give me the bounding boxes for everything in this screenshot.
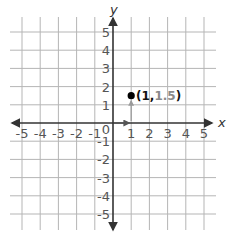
- y-tick: -1: [97, 134, 110, 149]
- plotted-point: [128, 92, 135, 99]
- y-tick: -4: [97, 189, 110, 204]
- x-tick: 4: [182, 126, 190, 141]
- y-tick: -3: [97, 171, 110, 186]
- y-tick: 1: [102, 98, 110, 113]
- x-tick: -3: [52, 126, 65, 141]
- x-tick: 1: [127, 126, 135, 141]
- point-label-close: ): [176, 89, 181, 103]
- y-axis-label: y: [109, 2, 118, 17]
- point-label-y: 1.5: [154, 89, 175, 103]
- x-tick: 3: [163, 126, 171, 141]
- coordinate-plane: x y -5 -4 -3 -2 -1 1 2 3 4 5 0 5 4 3 2 1…: [0, 0, 233, 243]
- y-tick: 2: [102, 80, 110, 95]
- y-tick: 5: [102, 25, 110, 40]
- point-label: (1,1.5): [136, 89, 181, 103]
- x-axis-label: x: [217, 115, 226, 130]
- y-tick: 4: [102, 43, 110, 58]
- y-tick: 3: [102, 61, 110, 76]
- x-tick: -5: [16, 126, 29, 141]
- x-tick: -4: [34, 126, 47, 141]
- y-tick: -5: [97, 207, 110, 222]
- y-tick: -2: [97, 152, 110, 167]
- x-tick: 5: [200, 126, 208, 141]
- x-tick: 2: [145, 126, 153, 141]
- point-label-open: (1,: [136, 89, 154, 103]
- x-tick-labels: -5 -4 -3 -2 -1 1 2 3 4 5: [16, 126, 209, 141]
- x-tick: -2: [70, 126, 83, 141]
